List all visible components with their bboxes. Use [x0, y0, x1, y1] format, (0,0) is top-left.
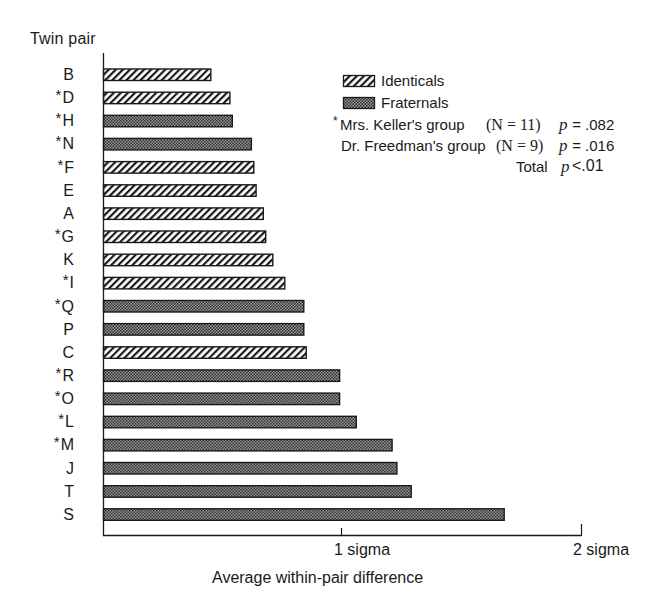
- category-label-e: E: [44, 182, 74, 200]
- star-marker: *: [54, 433, 60, 450]
- keller-p-symbol: p: [559, 115, 568, 135]
- total-p-value: <.01: [572, 157, 604, 175]
- category-letter: O: [62, 390, 74, 407]
- category-label-n: *N: [44, 135, 74, 153]
- freedman-n: (N = 9): [496, 137, 543, 155]
- bar-r: [104, 370, 340, 382]
- legend-swatch-fraternals: [344, 98, 375, 109]
- bar-l: [104, 416, 357, 428]
- bar-f: [104, 162, 254, 174]
- keller-star-marker: *: [333, 114, 338, 128]
- bar-d: [104, 92, 230, 104]
- category-letter: C: [62, 344, 74, 361]
- category-letter: E: [63, 182, 74, 199]
- bar-i: [104, 277, 285, 289]
- bar-q: [104, 301, 304, 313]
- category-label-c: C: [44, 344, 74, 362]
- star-marker: *: [55, 387, 61, 404]
- keller-n: (N = 11): [486, 116, 541, 134]
- bar-c: [104, 347, 307, 359]
- bar-m: [104, 439, 393, 451]
- category-letter: J: [66, 460, 74, 477]
- keller-p-value: = .082: [568, 116, 614, 133]
- star-marker: *: [58, 410, 64, 427]
- bar-k: [104, 254, 273, 266]
- bar-h: [104, 115, 233, 127]
- bar-t: [104, 486, 412, 498]
- category-letter: L: [65, 413, 74, 430]
- category-letter: N: [62, 135, 74, 152]
- star-marker: *: [56, 86, 62, 103]
- y-axis-title: Twin pair: [30, 30, 96, 48]
- star-marker: *: [55, 295, 61, 312]
- total-p-symbol: p: [561, 157, 570, 177]
- category-label-r: *R: [44, 367, 74, 385]
- category-label-f: *F: [44, 159, 74, 177]
- category-label-k: K: [44, 251, 74, 269]
- category-label-i: *I: [44, 274, 74, 292]
- category-letter: M: [61, 436, 74, 453]
- legend-swatches: [344, 76, 375, 109]
- star-marker: *: [56, 109, 62, 126]
- legend-swatch-identicals: [344, 76, 375, 87]
- category-label-o: *O: [44, 390, 74, 408]
- freedman-group-label: Dr. Freedman's group: [341, 137, 486, 154]
- category-label-d: *D: [44, 89, 74, 107]
- bar-b: [104, 69, 211, 81]
- category-letter: G: [62, 228, 74, 245]
- legend-label-identicals: Identicals: [381, 72, 444, 89]
- bar-j: [104, 463, 397, 475]
- bar-g: [104, 231, 266, 243]
- category-label-s: S: [44, 506, 74, 524]
- category-label-t: T: [44, 483, 74, 501]
- category-letter: S: [63, 506, 74, 523]
- total-label: Total: [516, 158, 548, 175]
- category-letter: T: [64, 483, 74, 500]
- star-marker: *: [56, 132, 62, 149]
- bar-o: [104, 393, 340, 405]
- category-letter: F: [64, 159, 74, 176]
- category-label-q: *Q: [44, 298, 74, 316]
- legend-label-fraternals: Fraternals: [381, 94, 449, 111]
- category-label-m: *M: [44, 436, 74, 454]
- bar-s: [104, 509, 505, 521]
- category-letter: I: [70, 274, 74, 291]
- category-letter: B: [63, 66, 74, 83]
- x-tick-label-2: 2 sigma: [573, 541, 629, 559]
- bar-p: [104, 324, 304, 336]
- bar-a: [104, 208, 264, 220]
- category-letter: D: [62, 89, 74, 106]
- category-letter: H: [62, 112, 74, 129]
- category-label-p: P: [44, 321, 74, 339]
- category-letter: A: [63, 205, 74, 222]
- category-letter: P: [63, 321, 74, 338]
- freedman-p-value: = .016: [568, 137, 614, 154]
- keller-group-label: Mrs. Keller's group: [340, 116, 465, 133]
- category-label-g: *G: [44, 228, 74, 246]
- star-marker: *: [55, 225, 61, 242]
- category-label-h: *H: [44, 112, 74, 130]
- star-marker: *: [63, 271, 69, 288]
- category-label-b: B: [44, 66, 74, 84]
- star-marker: *: [56, 364, 62, 381]
- category-label-l: *L: [44, 413, 74, 431]
- star-marker: *: [57, 156, 63, 173]
- category-label-j: J: [44, 460, 74, 478]
- bar-chart: [0, 0, 671, 616]
- x-tick-label-1: 1 sigma: [334, 541, 390, 559]
- bar-e: [104, 185, 257, 197]
- freedman-p-symbol: p: [559, 136, 568, 156]
- category-letter: K: [63, 251, 74, 268]
- bar-n: [104, 138, 252, 150]
- category-letter: R: [62, 367, 74, 384]
- x-axis-title: Average within-pair difference: [212, 569, 423, 587]
- category-letter: Q: [62, 298, 74, 315]
- category-label-a: A: [44, 205, 74, 223]
